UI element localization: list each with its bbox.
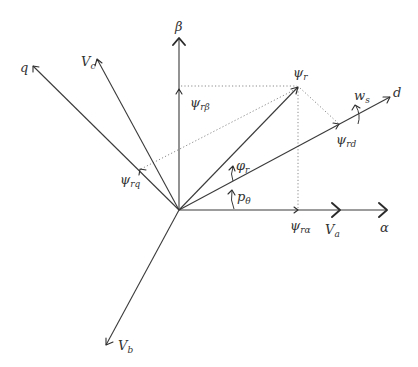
psi-rbeta-label: ψrβ [190,95,210,112]
vb-axis [106,210,179,345]
labels: β α q d Vc Va Vb ψr ψrβ ψrα ψrd ψrq φr p… [20,19,401,355]
angle-arcs [228,105,360,209]
w-s-arc-arrow-icon [352,105,360,110]
psi-r-label: ψr [293,65,308,82]
psi-rd-label: ψrd [336,132,357,149]
phi-r-label: φr [236,158,250,175]
psi-ralpha-label: ψrα [290,218,311,235]
p-theta-label: pθ [237,189,251,206]
q-axis [33,66,179,210]
beta-label: β [174,19,183,34]
phi-r-angle-arc [232,167,234,181]
vb-label: Vb [118,338,133,355]
alpha-label: α [380,220,389,235]
psi-rd-projection-line [300,88,338,123]
d-label: d [393,85,401,100]
psi-rq-label: ψrq [120,172,141,189]
va-label: Va [325,222,340,239]
psi-rq-projection-line [141,89,296,169]
beta-axis [173,38,185,210]
vector-diagram: β α q d Vc Va Vb ψr ψrβ ψrα ψrd ψrq φr p… [0,0,418,367]
vc-label: Vc [81,54,95,71]
q-label: q [20,60,28,75]
w-s-label: ws [354,88,370,105]
alpha-axis [179,203,387,217]
